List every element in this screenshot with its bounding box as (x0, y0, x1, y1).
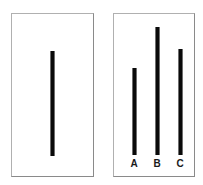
reference-line (51, 51, 54, 156)
comparison-line-b[interactable] (156, 27, 159, 155)
line-label-b: B (151, 158, 163, 169)
comparison-line-a[interactable] (133, 68, 136, 155)
line-label-a: A (128, 158, 140, 169)
reference-line-panel (11, 13, 94, 177)
comparison-lines-panel: A B C (113, 13, 195, 177)
comparison-line-c[interactable] (179, 49, 182, 155)
asch-line-task-figure: A B C (0, 0, 203, 185)
line-label-c: C (174, 158, 186, 169)
